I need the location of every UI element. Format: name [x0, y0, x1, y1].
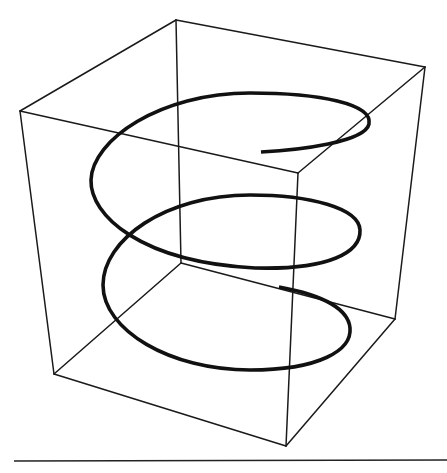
- box-edge-bottom-right: [286, 319, 395, 446]
- box-edge-top-back: [176, 20, 425, 67]
- box-edge-vertical-front-right: [286, 173, 298, 446]
- box-edge-top-right: [298, 67, 425, 173]
- box-edge-vertical-front-left: [20, 111, 54, 374]
- helix-curve: [91, 93, 369, 370]
- box-edge-top-left: [20, 20, 176, 111]
- box-edge-bottom-front: [54, 374, 286, 446]
- box-edge-vertical-back-right: [395, 67, 425, 319]
- box-edge-top-front: [20, 111, 298, 173]
- box-edge-vertical-back-left: [176, 20, 181, 263]
- baseline-rule: [14, 460, 447, 461]
- helix-plot: [0, 0, 447, 473]
- box-edge-bottom-back: [181, 263, 395, 319]
- bounding-box: [20, 20, 425, 446]
